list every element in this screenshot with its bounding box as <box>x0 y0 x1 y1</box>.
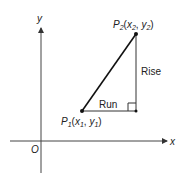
point-corner <box>135 110 138 113</box>
diagram-canvas: y x O P2(x2, y2) P1(x1, y1) Rise Run <box>0 0 185 181</box>
origin-label: O <box>31 144 39 155</box>
rise-label: Rise <box>141 66 161 77</box>
y-axis-label: y <box>36 13 43 24</box>
right-angle-marker <box>128 103 136 111</box>
slope-diagram: y x O P2(x2, y2) P1(x1, y1) Rise Run <box>0 0 185 181</box>
x-axis-label: x <box>169 136 176 147</box>
run-label: Run <box>99 99 117 110</box>
p1-label: P1(x1, y1) <box>61 116 102 128</box>
point-p2 <box>134 32 138 36</box>
p2-label: P2(x2, y2) <box>113 19 154 31</box>
point-p1 <box>80 109 84 113</box>
